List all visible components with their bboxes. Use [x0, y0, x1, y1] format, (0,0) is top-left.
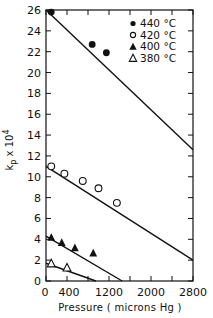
- open-circle-marker: [130, 32, 135, 37]
- x-tick-label: 400: [59, 286, 80, 299]
- filled-circle-marker: [48, 9, 55, 16]
- x-tick-label: 1200: [95, 286, 123, 299]
- open-circle-marker: [61, 170, 68, 177]
- x-tick-label: 0: [42, 286, 49, 299]
- y-tick-label: 14: [27, 129, 41, 142]
- y-tick-label: 10: [27, 171, 41, 184]
- legend-label: 440 °C: [140, 17, 176, 29]
- y-tick-label: 4: [34, 233, 41, 246]
- y-tick-label: 8: [34, 192, 41, 205]
- x-tick-label: 2000: [137, 286, 165, 299]
- open-circle-marker: [79, 178, 86, 185]
- chart: 024681012141618202224260400120020002800 …: [0, 0, 213, 318]
- y-tick-label: 16: [27, 108, 41, 121]
- legend-label: 380 °C: [140, 52, 176, 64]
- y-tick-label: 26: [27, 4, 41, 17]
- y-tick-label: 18: [27, 87, 41, 100]
- x-axis-label: Pressure ( microns Hg ): [58, 302, 182, 313]
- legend-label: 420 °C: [140, 29, 176, 41]
- open-circle-marker: [113, 199, 120, 206]
- y-tick-label: 2: [34, 254, 41, 267]
- y-tick-label: 0: [34, 275, 41, 288]
- y-tick-label: 24: [27, 25, 41, 38]
- y-tick-label: 12: [27, 150, 41, 163]
- y-tick-label: 20: [27, 67, 41, 80]
- legend-label: 400 °C: [140, 40, 176, 52]
- open-circle-marker: [48, 163, 55, 170]
- x-tick-label: 2800: [179, 286, 207, 299]
- filled-circle-marker: [89, 41, 96, 48]
- y-tick-label: 6: [34, 212, 41, 225]
- y-tick-label: 22: [27, 46, 41, 59]
- filled-circle-marker: [130, 21, 135, 26]
- open-circle-marker: [95, 185, 102, 192]
- filled-circle-marker: [103, 49, 110, 56]
